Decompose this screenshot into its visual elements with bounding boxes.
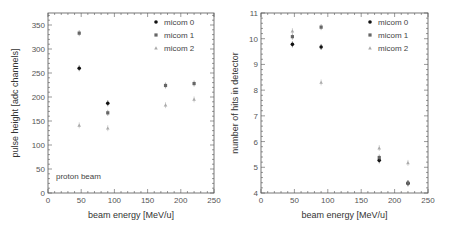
x-axis: 050100150200250 [259, 13, 435, 205]
data-point [320, 26, 323, 29]
y-tick-label: 6 [254, 138, 259, 147]
data-point [154, 20, 158, 24]
y-axis: 050100150200250300350 [32, 15, 214, 198]
data-point [192, 82, 195, 85]
x-axis-label: beam energy [MeV/u] [88, 210, 174, 220]
x-tick-label: 200 [174, 196, 188, 205]
y-tick-label: 10 [249, 35, 258, 44]
y-tick-label: 11 [250, 9, 259, 18]
data-point [291, 43, 295, 47]
legend-entry: micom 0 [378, 18, 409, 27]
data-point [106, 111, 109, 114]
data-point [78, 32, 81, 35]
y-tick-label: 0 [41, 189, 46, 198]
data-point [406, 161, 410, 164]
y-tick-label: 7 [254, 112, 259, 121]
series-micom-0 [291, 41, 410, 186]
y-tick-label: 4 [254, 189, 259, 198]
legend: micom 0micom 1micom 2 [368, 18, 409, 53]
data-point [319, 45, 323, 49]
y-tick-label: 100 [32, 141, 46, 150]
y-tick-label: 300 [32, 45, 46, 54]
x-axis-label: beam energy [MeV/u] [301, 210, 387, 220]
data-point [378, 156, 381, 159]
y-tick-label: 350 [32, 21, 46, 30]
y-tick-label: 200 [32, 93, 46, 102]
y-tick-label: 8 [254, 86, 259, 95]
hits-chart: 050100150200250beam energy [MeV/u]456789… [230, 9, 435, 220]
data-point [164, 84, 167, 87]
data-point [106, 101, 110, 105]
plot-frame [48, 13, 214, 193]
x-tick-label: 100 [108, 196, 122, 205]
data-point [154, 33, 157, 36]
legend-entry: micom 0 [164, 18, 195, 27]
data-point [319, 81, 323, 84]
series-micom-0 [77, 65, 109, 106]
data-point [291, 29, 295, 32]
data-point [291, 35, 294, 38]
legend-entry: micom 1 [164, 31, 195, 40]
y-axis-label: number of hits in detector [230, 52, 240, 154]
x-tick-label: 0 [46, 196, 51, 205]
legend-entry: micom 1 [378, 31, 409, 40]
chart-canvas: 050100150200250beam energy [MeV/u]050100… [0, 0, 450, 231]
series-micom-2 [77, 96, 195, 131]
x-tick-label: 0 [259, 196, 264, 205]
x-tick-label: 50 [77, 196, 86, 205]
data-point [154, 46, 158, 49]
plot-frame [261, 13, 428, 193]
data-point [368, 33, 371, 36]
x-tick-label: 150 [355, 196, 369, 205]
legend-entry: micom 2 [378, 44, 409, 53]
data-point [406, 182, 409, 185]
data-point [106, 126, 110, 129]
data-point [77, 124, 81, 127]
y-tick-label: 9 [254, 60, 259, 69]
legend-entry: micom 2 [164, 44, 195, 53]
series-micom-1 [78, 30, 196, 116]
data-point [77, 66, 81, 70]
data-point [368, 46, 372, 49]
y-tick-label: 250 [32, 69, 46, 78]
y-tick-label: 150 [32, 117, 46, 126]
pulse-height-chart: 050100150200250beam energy [MeV/u]050100… [10, 13, 221, 220]
legend: micom 0micom 1micom 2 [154, 18, 195, 53]
x-tick-label: 200 [388, 196, 402, 205]
x-tick-label: 100 [321, 196, 335, 205]
x-tick-label: 150 [141, 196, 155, 205]
y-axis-label: pulse height [adc channels] [10, 48, 20, 157]
data-point [368, 20, 372, 24]
y-tick-label: 5 [254, 163, 259, 172]
y-tick-label: 50 [36, 165, 45, 174]
x-tick-label: 50 [290, 196, 299, 205]
annotation-text: proton beam [56, 172, 101, 181]
x-tick-label: 250 [207, 196, 221, 205]
data-point [192, 98, 196, 101]
data-point [377, 146, 381, 149]
x-tick-label: 250 [421, 196, 435, 205]
data-point [164, 103, 168, 106]
